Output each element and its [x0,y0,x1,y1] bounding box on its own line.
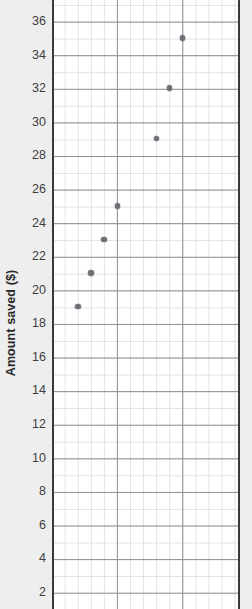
y-axis-tick-label: 22 [32,249,46,263]
data-point [115,203,121,209]
y-axis-tick-label: 18 [32,316,46,330]
y-axis-tick-label: 30 [32,115,46,129]
y-axis-tick-label: 34 [32,48,46,62]
data-point [101,237,107,243]
y-axis-tick-label: 32 [32,81,46,95]
plot-area [52,0,240,609]
y-axis-tick-label: 24 [32,216,46,230]
y-axis-tick-label: 14 [32,383,46,397]
y-axis-tick-label: 2 [39,585,46,599]
y-axis-tick-label: 36 [32,14,46,28]
y-axis-tick-label: 10 [32,451,46,465]
scatter-chart: Amount saved ($) 36343230282624222018161… [0,0,252,609]
y-axis-title-label: Amount saved ($) [4,270,18,376]
y-axis-tick-label: 20 [32,283,46,297]
y-axis-tick-label: 12 [32,417,46,431]
data-point [88,270,94,276]
y-axis-tick-label: 26 [32,182,46,196]
y-axis-tick-label: 28 [32,148,46,162]
data-point [180,35,186,41]
y-axis-tick-label: 16 [32,350,46,364]
y-axis-tick-labels: 36343230282624222018161412108642 [22,0,50,609]
figure-right-margin [240,0,252,609]
y-axis-spine [52,0,54,609]
y-axis-tick-label: 6 [39,518,46,532]
y-axis-tick-label: 8 [39,484,46,498]
y-axis-title: Amount saved ($) [0,0,22,609]
y-axis-tick-label: 4 [39,551,46,565]
